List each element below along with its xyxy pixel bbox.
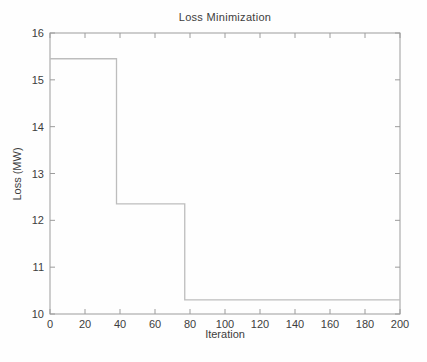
y-tick-label: 16 xyxy=(32,27,44,39)
loss-step-line xyxy=(50,59,400,300)
y-tick-label: 10 xyxy=(32,308,44,320)
plot-box xyxy=(50,33,400,314)
x-axis-label: Iteration xyxy=(50,328,400,340)
y-tick-label: 14 xyxy=(32,121,44,133)
loss-minimization-figure: 0204060801001201401601802001011121314151… xyxy=(0,0,427,362)
y-tick-label: 15 xyxy=(32,74,44,86)
plot-svg: 0204060801001201401601802001011121314151… xyxy=(0,0,427,362)
chart-title: Loss Minimization xyxy=(50,11,400,23)
y-tick-label: 12 xyxy=(32,214,44,226)
y-axis-label: Loss (MW) xyxy=(11,124,23,224)
y-tick-label: 13 xyxy=(32,168,44,180)
y-tick-label: 11 xyxy=(33,261,44,273)
